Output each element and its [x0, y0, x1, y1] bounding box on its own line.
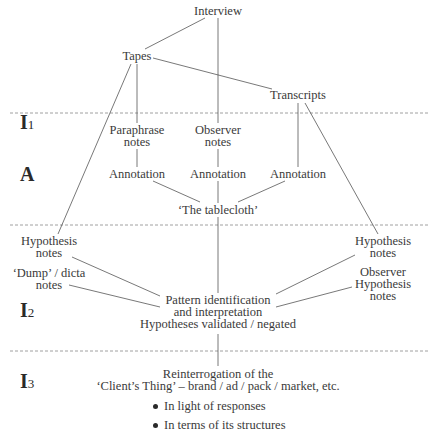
node-annotation-center: Annotation: [190, 168, 246, 180]
node-transcripts: Transcripts: [270, 89, 326, 101]
node-observer-notes: Observernotes: [195, 124, 241, 148]
phase-label-a: A: [20, 163, 34, 186]
node-interview: Interview: [194, 5, 242, 17]
phase-label-i3: I3: [20, 370, 34, 393]
node-dump-dicta-notes: ‘Dump’ / dictanotes: [13, 267, 86, 291]
phase-label-i2: I2: [20, 299, 34, 322]
node-hypothesis-notes-left: Hypothesisnotes: [21, 235, 77, 259]
node-tapes: Tapes: [123, 50, 152, 62]
node-hypothesis-notes-right: Hypothesisnotes: [355, 235, 411, 259]
bullet-icon: [153, 423, 158, 428]
node-reinterrogation: Reinterrogation of the‘Client’s Thing’ –…: [96, 368, 339, 392]
node-annotation-right: Annotation: [270, 168, 326, 180]
node-annotation-left: Annotation: [109, 168, 165, 180]
bullet-item: In light of responses: [153, 399, 266, 414]
bullet-item: In terms of its structures: [153, 418, 286, 433]
node-paraphrase-notes: Paraphrasenotes: [110, 124, 165, 148]
node-observer-hypothesis-notes: ObserverHypothesisnotes: [355, 266, 411, 302]
node-pattern-identification: Pattern identificationand interpretation…: [140, 294, 296, 330]
bullet-icon: [153, 404, 158, 409]
node-tablecloth: ‘The tablecloth’: [178, 204, 258, 216]
phase-label-i1: I1: [20, 111, 34, 134]
